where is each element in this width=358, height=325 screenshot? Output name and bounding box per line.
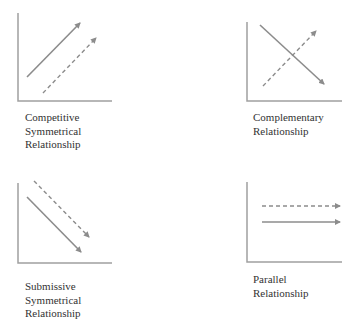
parallel-chart xyxy=(247,182,342,262)
competitive-label: Competitive Symmetrical Relationship xyxy=(25,111,81,152)
complementary-chart xyxy=(247,22,342,101)
solid-arrow xyxy=(27,23,80,77)
submissive-label: Submissive Symmetrical Relationship xyxy=(25,280,81,321)
dashed-arrow xyxy=(34,181,89,237)
solid-arrow xyxy=(260,25,324,84)
label-line: Competitive xyxy=(25,111,81,125)
dashed-arrow xyxy=(263,31,316,86)
label-line: Relationship xyxy=(25,138,81,152)
label-line: Parallel xyxy=(253,273,309,287)
complementary-label: Complementary Relationship xyxy=(253,111,324,138)
axes xyxy=(18,13,112,101)
parallel-label: Parallel Relationship xyxy=(253,273,309,300)
dashed-arrow xyxy=(43,38,96,93)
axes xyxy=(18,183,112,263)
solid-arrow xyxy=(27,197,81,252)
axes xyxy=(247,22,342,101)
submissive-symmetrical-chart xyxy=(18,181,112,263)
label-line: Relationship xyxy=(253,287,309,301)
label-line: Submissive xyxy=(25,280,81,294)
label-line: Complementary xyxy=(253,111,324,125)
label-line: Symmetrical xyxy=(25,125,81,139)
label-line: Relationship xyxy=(25,307,81,321)
label-line: Symmetrical xyxy=(25,294,81,308)
label-line: Relationship xyxy=(253,125,324,139)
competitive-symmetrical-chart xyxy=(18,13,112,101)
